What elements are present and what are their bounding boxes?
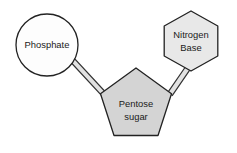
diagram-canvas: Pentose sugar Phosphate Nitrogen Base [0,0,237,153]
pentose-sugar-label-line1: Pentose [119,98,153,109]
nitrogen-base-label-line1: Nitrogen [173,29,208,40]
pentose-sugar-label-line2: sugar [124,111,147,122]
bond-base-to-sugar [168,66,190,95]
phosphate-label: Phosphate [25,39,70,50]
nitrogen-base-label-line2: Base [180,42,201,53]
bond-phosphate-to-sugar-body [71,59,106,96]
node-phosphate[interactable]: Phosphate [16,14,78,76]
bond-base-to-sugar-body [168,66,190,95]
nucleotide-diagram: Pentose sugar Phosphate Nitrogen Base [0,0,237,153]
node-pentose-sugar[interactable]: Pentose sugar [101,68,172,136]
node-nitrogen-base[interactable]: Nitrogen Base [164,11,218,71]
bond-phosphate-to-sugar [71,59,106,96]
